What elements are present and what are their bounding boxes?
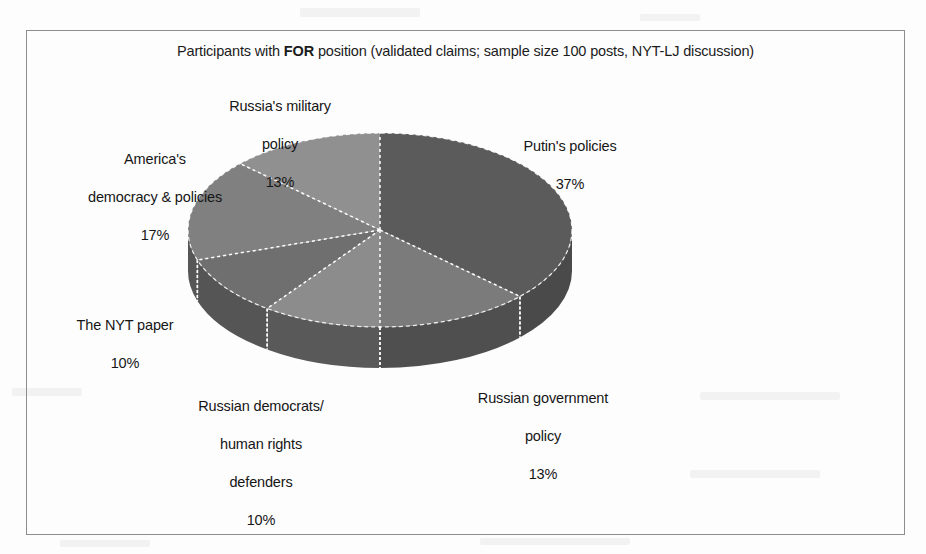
slice-label-name: America's (50, 150, 260, 169)
scan-artifact (480, 538, 630, 545)
slice-label-russian-government-policy: Russian government policy 13% (437, 370, 649, 503)
slice-label-russian-democrats-human-rights-defenders: Russian democrats/ human rights defender… (152, 378, 370, 549)
slice-label-name: Russian democrats/ (152, 397, 370, 416)
slice-label-putins-policies: Putin's policies 37% (470, 118, 670, 213)
slice-label-name: The NYT paper (30, 316, 220, 335)
scan-artifact (300, 8, 420, 17)
chart-title-emphasis: FOR (284, 43, 314, 59)
slice-label-name: Russian government (437, 389, 649, 408)
slice-label-name: democracy & policies (50, 188, 260, 207)
slice-label-name: Putin's policies (470, 137, 670, 156)
slice-label-name: defenders (152, 473, 370, 492)
chart-title-after: position (validated claims; sample size … (314, 43, 754, 59)
slice-label-percent: 17% (50, 226, 260, 245)
slice-label-percent: 13% (437, 465, 649, 484)
slice-label-americas-democracy-policies: America's democracy & policies 17% (50, 131, 260, 264)
slice-label-name: policy (437, 427, 649, 446)
slice-label-percent: 37% (470, 175, 670, 194)
slice-label-name: human rights (152, 435, 370, 454)
scan-artifact (60, 540, 150, 547)
slice-label-name: Russia's military (178, 97, 382, 116)
scanned-page: Participants with FOR position (validate… (0, 0, 926, 554)
chart-title-before: Participants with (177, 43, 284, 59)
chart-title: Participants with FOR position (validate… (27, 43, 904, 59)
slice-label-percent: 10% (30, 354, 220, 373)
scan-artifact (640, 14, 700, 21)
slice-label-percent: 10% (152, 511, 370, 530)
